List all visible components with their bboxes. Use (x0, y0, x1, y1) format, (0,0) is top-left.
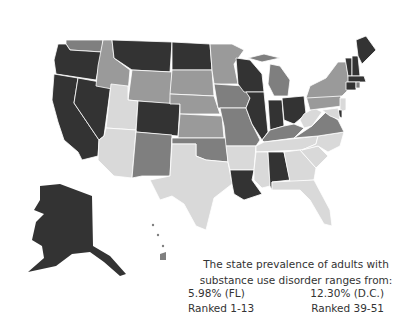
state-hawaii-island (152, 224, 154, 226)
range-high-value: 12.30% (D.C.) (300, 286, 384, 301)
state-mississippi (254, 152, 270, 188)
state-hawaii (160, 252, 166, 260)
state-hawaii-island (157, 234, 159, 236)
state-new-york (306, 62, 350, 98)
state-hawaii-island (162, 245, 164, 247)
state-alaska (28, 184, 126, 276)
range-low: 5.98% (FL) Ranked 1-13 (188, 286, 254, 315)
state-colorado (136, 101, 180, 136)
state-indiana (268, 100, 284, 130)
state-connecticut (346, 82, 356, 90)
state-new-mexico (132, 132, 172, 178)
state-wisconsin (236, 58, 264, 92)
state-wyoming (128, 70, 172, 104)
range-high-rank: Ranked 39-51 (300, 301, 384, 315)
caption-line-1: The state prevalence of adults with (196, 256, 396, 272)
range-high: 12.30% (D.C.) Ranked 39-51 (300, 286, 384, 315)
state-new-hampshire (352, 56, 360, 76)
state-michigan-upper (248, 54, 280, 62)
state-michigan (268, 64, 290, 96)
state-south-dakota (170, 70, 214, 96)
state-rhode-island (356, 82, 360, 88)
state-massachusetts (348, 76, 366, 82)
legend-caption: The state prevalence of adults with subs… (196, 256, 396, 288)
state-florida (272, 180, 332, 226)
range-low-value: 5.98% (FL) (188, 286, 254, 301)
state-kansas (178, 114, 224, 138)
state-arkansas (226, 146, 256, 170)
range-low-rank: Ranked 1-13 (188, 301, 254, 315)
state-maine (356, 36, 376, 64)
state-north-dakota (172, 42, 212, 70)
